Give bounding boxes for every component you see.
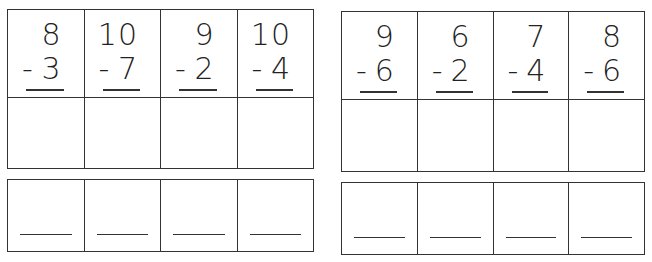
problem-display: 6 - 2	[418, 12, 493, 100]
sum-underline	[512, 91, 549, 93]
problem-display: 8 - 6	[569, 12, 644, 100]
minus-sign: -	[508, 56, 519, 86]
answer-cell[interactable]	[85, 180, 162, 251]
problem-cell: 7 - 4	[494, 12, 570, 171]
answer-line	[506, 237, 557, 239]
answer-line	[97, 234, 149, 236]
minuend: 10	[98, 20, 138, 50]
answer-cell[interactable]	[418, 183, 494, 254]
answer-line	[354, 237, 405, 239]
problem-cell: 6 - 2	[418, 12, 494, 171]
sum-underline	[587, 91, 624, 93]
answer-line	[173, 234, 225, 236]
work-space[interactable]	[8, 98, 84, 168]
minus-sign: -	[99, 54, 110, 84]
answer-cell[interactable]	[161, 180, 238, 251]
sum-underline	[103, 89, 141, 91]
problem-display: 7 - 4	[494, 12, 569, 100]
minuend: 10	[251, 20, 291, 50]
minus-sign: -	[583, 56, 594, 86]
minuend: 9	[375, 22, 395, 52]
problem-display: 8 - 3	[8, 10, 84, 98]
answer-cell[interactable]	[569, 183, 644, 254]
minuend: 7	[526, 22, 546, 52]
answer-cell[interactable]	[8, 180, 85, 251]
minuend: 9	[194, 20, 214, 50]
subtrahend: 7	[118, 54, 138, 84]
answer-line	[430, 237, 481, 239]
work-space[interactable]	[569, 100, 644, 171]
work-space[interactable]	[238, 98, 314, 168]
work-space[interactable]	[418, 100, 493, 171]
problem-display: 9 - 6	[342, 12, 417, 100]
work-space[interactable]	[161, 98, 237, 168]
subtrahend: 6	[375, 56, 395, 86]
work-space[interactable]	[494, 100, 569, 171]
problem-cell: 9 - 2	[161, 10, 238, 168]
problem-cell: 9 - 6	[342, 12, 418, 171]
answer-line	[20, 234, 72, 236]
subtrahend: 6	[602, 56, 622, 86]
sum-underline	[360, 91, 397, 93]
problem-cell: 10 - 7	[85, 10, 162, 168]
answer-line	[250, 234, 302, 236]
problem-display: 10 - 4	[238, 10, 314, 98]
minus-sign: -	[22, 54, 33, 84]
problem-display: 9 - 2	[161, 10, 237, 98]
problem-cell: 10 - 4	[238, 10, 314, 168]
minuend: 6	[450, 22, 470, 52]
minus-sign: -	[356, 56, 367, 86]
answer-cell[interactable]	[238, 180, 314, 251]
sum-underline	[26, 89, 64, 91]
minus-sign: -	[175, 54, 186, 84]
problem-display: 10 - 7	[85, 10, 161, 98]
minuend: 8	[41, 20, 61, 50]
right-problem-grid: 9 - 6 6 - 2 7 - 4 8 - 6	[341, 11, 645, 172]
answer-cell[interactable]	[342, 183, 418, 254]
left-answer-grid	[7, 179, 314, 252]
minus-sign: -	[252, 54, 263, 84]
left-problem-grid: 8 - 3 10 - 7 9 - 2 10 - 4	[7, 9, 314, 169]
answer-cell[interactable]	[494, 183, 570, 254]
minus-sign: -	[432, 56, 443, 86]
minuend: 8	[602, 22, 622, 52]
sum-underline	[436, 91, 473, 93]
subtrahend: 2	[450, 56, 470, 86]
subtrahend: 4	[526, 56, 546, 86]
answer-line	[581, 237, 632, 239]
work-space[interactable]	[342, 100, 417, 171]
sum-underline	[179, 89, 217, 91]
subtrahend: 2	[194, 54, 214, 84]
sum-underline	[256, 89, 294, 91]
subtrahend: 3	[41, 54, 61, 84]
right-answer-grid	[341, 182, 645, 255]
problem-cell: 8 - 6	[569, 12, 644, 171]
work-space[interactable]	[85, 98, 161, 168]
problem-cell: 8 - 3	[8, 10, 85, 168]
subtrahend: 4	[271, 54, 291, 84]
